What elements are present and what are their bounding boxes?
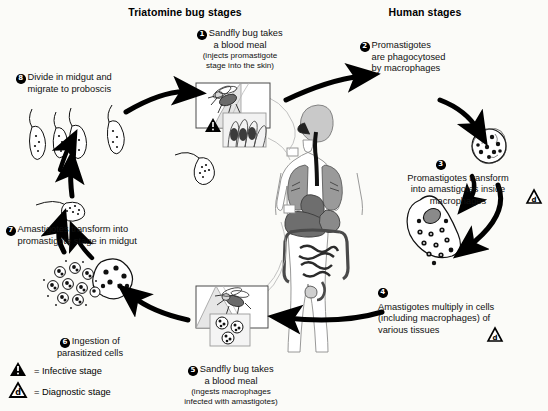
macrophage-phagocytosing	[472, 129, 506, 164]
step-4-line1: Amastigotes multiply in cells	[378, 302, 494, 312]
step-3-line2: into amastigotes inside	[411, 184, 506, 194]
skin-pointer-box-top	[287, 148, 298, 156]
legend-diagnostic-text: = Diagnostic stage	[34, 387, 111, 397]
header-human: Human stages	[360, 6, 490, 18]
step-4-label: Amastigotes multiply in cells (including…	[378, 302, 530, 336]
step-6-label: 6Ingestion of parasitized cells	[28, 336, 152, 359]
step-8-line1: Divide in midgut and	[28, 72, 112, 82]
step-8-line2: migrate to proboscis	[16, 84, 111, 94]
step-1-label: 1Sandfly bug takes a blood meal (injects…	[182, 28, 298, 70]
legend-infective-triangle	[10, 362, 26, 376]
step-2-line3: by macrophages	[360, 63, 440, 73]
step-2-number: 2	[360, 42, 370, 52]
diagnostic-marker-step3: d	[527, 190, 541, 204]
step-8-number: 8	[16, 74, 26, 84]
step-1-sub: (injects promastigote	[182, 51, 298, 61]
step-1-sub2: stage into the skin)	[182, 61, 298, 71]
step-5-sub2: infected with amastigotes)	[163, 397, 299, 407]
promastigotes-dividing	[30, 105, 125, 160]
arrow-2-to-3	[440, 100, 478, 130]
step-7-label: 7Amastigotes transform into promastigote…	[6, 224, 186, 247]
step-5-title2: a blood meal	[204, 376, 257, 386]
panel-sandfly-bite-bottom	[196, 286, 268, 346]
step-5-label: 5Sandfly bug takes a blood meal (ingests…	[163, 364, 299, 406]
promastigote-single-top	[175, 153, 214, 185]
step-1-title2: a blood meal	[213, 40, 266, 50]
step-4-line2: (including macrophages) of	[378, 313, 490, 323]
step-7-line1: Amastigotes transform into	[18, 224, 129, 234]
parasitized-cells-cluster	[43, 259, 132, 309]
step-5-number: 5	[188, 366, 198, 376]
arrow-7-to-8	[71, 168, 72, 196]
step-6-number: 6	[60, 338, 70, 348]
infected-macrophage-inset	[216, 317, 243, 344]
arrow-4-to-5	[286, 312, 382, 320]
promastigote-midgut	[36, 202, 85, 222]
step-7-line2: promastigote stage in midgut	[6, 236, 137, 246]
step-2-line1: Promastigotes	[372, 40, 431, 50]
step-5-sub: (ingests macrophages	[163, 387, 299, 397]
step-6-line1: Ingestion of	[72, 336, 120, 346]
lifecycle-diagram: d d d Triatomine bug stages Human stages…	[0, 0, 548, 411]
step-1-title: Sandfly bug takes	[209, 28, 283, 38]
step-2-label: 2Promastigotes are phagocytosed by macro…	[360, 40, 480, 74]
step-6-line2: parasitized cells	[57, 348, 123, 358]
step-3-label: Promastigotes transform into amastigotes…	[392, 173, 524, 207]
step-8-label: 8Divide in midgut and migrate to probosc…	[16, 72, 166, 95]
step-4-line3: various tissues	[378, 325, 440, 335]
step-3-number: 3	[436, 160, 446, 170]
infective-marker-step1	[205, 118, 221, 132]
panel-sandfly-bite-top	[196, 83, 270, 147]
skin-pointer-box-bottom	[284, 205, 295, 213]
legend-diagnostic-triangle: d	[10, 383, 26, 397]
step-3-line3: macrophages	[430, 196, 486, 206]
human-body-figure	[276, 105, 363, 352]
legend-infective-text: = Infective stage	[34, 366, 102, 376]
arrow-1-to-2	[286, 76, 362, 100]
header-triatomine: Triatomine bug stages	[90, 6, 280, 18]
step-2-line2: are phagocytosed	[360, 52, 445, 62]
step-1-number: 1	[197, 30, 207, 40]
svg-text:d: d	[15, 388, 21, 397]
step-7-number: 7	[6, 226, 16, 236]
free-parasitized-cells	[48, 263, 100, 306]
step-4-number: 4	[378, 288, 388, 298]
step-3-line1: Promastigotes transform	[407, 173, 508, 183]
svg-text:d: d	[531, 196, 536, 204]
arrow-5-to-6	[132, 296, 188, 320]
step-5-title: Sandfly bug takes	[200, 364, 274, 374]
arrow-into-8	[60, 144, 70, 170]
